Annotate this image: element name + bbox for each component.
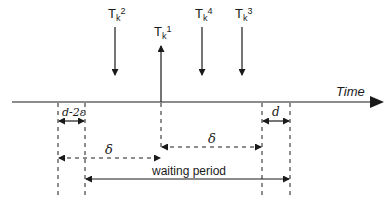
svg-text:Tk3: Tk3	[235, 6, 252, 23]
interval-delta-right: δ	[162, 131, 261, 147]
interval-d-minus-2eps: d-2ε	[59, 106, 86, 121]
interval-delta-left: δ	[59, 142, 160, 158]
time-axis: Time	[12, 84, 384, 108]
event-tk4: Tk4	[195, 6, 212, 75]
svg-text:d: d	[272, 105, 280, 119]
event-tk3: Tk3	[235, 6, 252, 75]
svg-text:Tk1: Tk1	[154, 24, 171, 41]
axis-label: Time	[336, 84, 365, 99]
timing-diagram: Time Tk2 Tk1 Tk4 Tk3 d-2ε d δ	[0, 0, 389, 204]
event-tk1: Tk1	[154, 24, 171, 102]
svg-text:Tk4: Tk4	[195, 6, 212, 23]
event-tk2: Tk2	[108, 6, 125, 75]
svg-text:d-2ε: d-2ε	[62, 106, 86, 119]
interval-d: d	[263, 105, 289, 121]
svg-text:δ: δ	[105, 142, 113, 157]
svg-text:waiting period: waiting period	[151, 164, 226, 178]
axis-arrowhead-icon	[370, 96, 384, 108]
svg-text:Tk2: Tk2	[108, 6, 125, 23]
svg-text:δ: δ	[208, 131, 216, 146]
interval-boundaries	[58, 103, 290, 196]
interval-waiting-period: waiting period	[86, 164, 289, 179]
